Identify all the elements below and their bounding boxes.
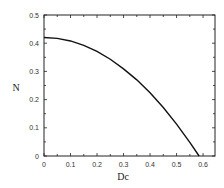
y-tick-label: 0.4 xyxy=(29,40,39,47)
x-tick-label: 0.6 xyxy=(198,161,208,168)
y-tick-label: 0.2 xyxy=(29,96,39,103)
plot-border xyxy=(44,15,215,156)
y-tick-label: 0.1 xyxy=(29,124,39,131)
x-tick-label: 0 xyxy=(42,161,46,168)
line-chart: 00.10.20.30.40.50.600.10.20.30.40.5 Dc N xyxy=(0,0,224,188)
x-tick-label: 0.5 xyxy=(172,161,182,168)
axis-ticks xyxy=(44,15,215,156)
y-axis-label: N xyxy=(12,82,19,93)
y-tick-label: 0.3 xyxy=(29,68,39,75)
x-tick-label: 0.4 xyxy=(145,161,155,168)
x-tick-label: 0.3 xyxy=(119,161,129,168)
data-curve xyxy=(44,38,199,156)
x-axis-label: Dc xyxy=(117,171,129,182)
x-tick-label: 0.2 xyxy=(92,161,102,168)
x-tick-label: 0.1 xyxy=(66,161,76,168)
plot-frame xyxy=(44,15,215,156)
y-tick-label: 0.5 xyxy=(29,12,39,19)
y-tick-label: 0 xyxy=(35,153,39,160)
tick-labels: 00.10.20.30.40.50.600.10.20.30.40.5 xyxy=(29,12,208,169)
